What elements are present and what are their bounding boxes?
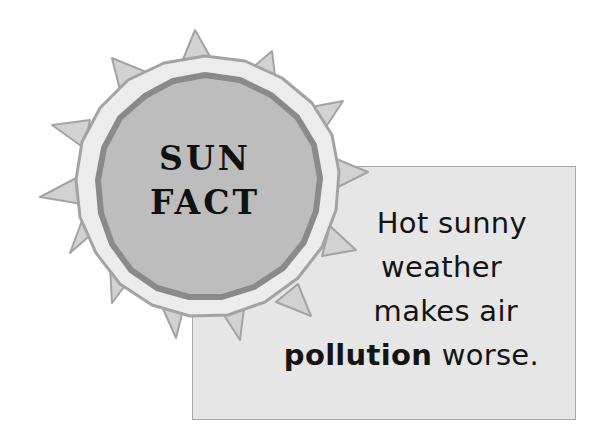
fact-box: Hot sunny weather makes air pollution wo… bbox=[192, 166, 576, 420]
fact-line-4: pollution worse. bbox=[284, 333, 539, 377]
fact-text: Hot sunny weather makes air pollution wo… bbox=[284, 201, 539, 377]
fact-line-4-rest: worse. bbox=[432, 338, 539, 372]
highlight-word: pollution bbox=[284, 338, 432, 372]
fact-line-2: weather bbox=[284, 245, 502, 289]
fact-line-3: makes air bbox=[284, 289, 518, 333]
fact-line-1: Hot sunny bbox=[284, 201, 527, 245]
